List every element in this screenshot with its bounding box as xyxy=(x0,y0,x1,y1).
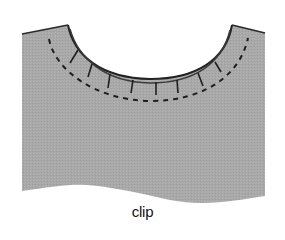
sewing-clip-diagram: clip xyxy=(0,0,285,240)
fabric-piece xyxy=(22,25,265,203)
figure-caption: clip xyxy=(0,203,285,220)
